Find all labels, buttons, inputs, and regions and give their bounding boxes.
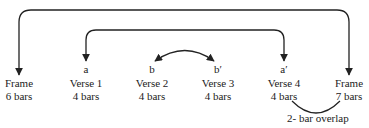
section-letter-b: b [142,63,162,75]
section-name-verse-1: Verse 1 [56,77,116,89]
section-letter-a-prime: a′ [274,63,294,75]
section-letter-a: a [76,63,96,75]
overlap-note: 2- bar overlap [287,112,349,124]
section-name-frame-end: Frame [319,77,369,89]
section-name-verse-4: Verse 4 [254,77,314,89]
section-name-frame-start: Frame [0,77,49,89]
section-bars-verse-2: 4 bars [122,90,182,102]
section-bars-verse-3: 4 bars [188,90,248,102]
section-name-verse-2: Verse 2 [122,77,182,89]
section-bars-frame-start: 6 bars [0,90,49,102]
form-diagram [0,0,369,128]
frame-connector-arrow [19,10,349,75]
section-letter-b-prime: b′ [208,63,228,75]
section-name-verse-3: Verse 3 [188,77,248,89]
section-bars-frame-end: 7 bars [319,90,369,102]
section-bars-verse-1: 4 bars [56,90,116,102]
a-connector-arrow [86,30,284,61]
b-connector-arc [155,51,214,62]
section-bars-verse-4: 4 bars [254,90,314,102]
